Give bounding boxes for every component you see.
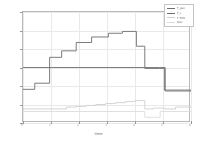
x-axis-title: time xyxy=(0,133,197,137)
legend-swatch-icon xyxy=(167,13,175,14)
x-tick-label: 4 xyxy=(127,124,141,127)
chart-legend: P_genP_LP_ESSSOC xyxy=(164,4,194,27)
x-tick-label: 2 xyxy=(71,124,85,127)
chart-figure: 0102030405060 0123456 Generated Power (M… xyxy=(0,0,197,147)
x-tick-label: 0 xyxy=(15,124,29,127)
legend-item-label: P_gen xyxy=(177,7,186,10)
legend-swatch-icon xyxy=(167,17,175,18)
legend-item-label: SOC xyxy=(177,21,183,24)
legend-swatch-icon xyxy=(167,22,175,23)
legend-item[interactable]: SOC xyxy=(167,20,191,25)
legend-swatch-icon xyxy=(167,8,175,9)
x-tick-label: 6 xyxy=(183,124,197,127)
legend-item-label: P_ESS xyxy=(177,17,186,20)
x-tick-label: 5 xyxy=(155,124,169,127)
x-tick-label: 1 xyxy=(43,124,57,127)
x-tick-label: 3 xyxy=(99,124,113,127)
legend-item-label: P_L xyxy=(177,12,182,15)
